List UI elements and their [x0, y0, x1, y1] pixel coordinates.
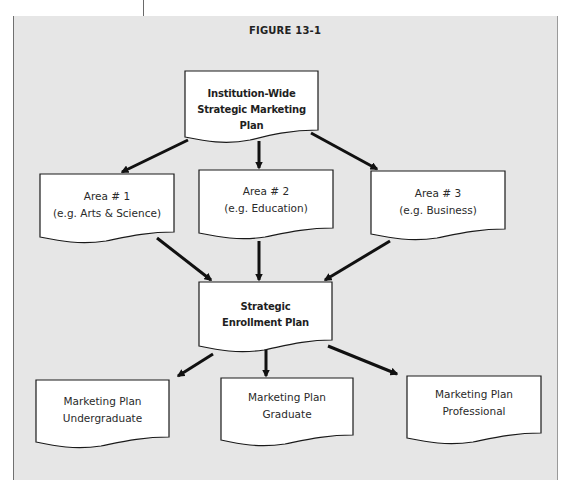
edge-area3-center	[325, 241, 390, 280]
node-area3-label: Area # 3 (e.g. Business)	[371, 185, 505, 219]
edge-top-area1	[122, 140, 188, 172]
edge-top-area3	[311, 133, 377, 169]
edge-center-professional	[328, 346, 397, 374]
node-professional-label: Marketing Plan Professional	[407, 386, 541, 420]
node-area1-label: Area # 1 (e.g. Arts & Science)	[40, 188, 174, 222]
node-center-label: Strategic Enrollment Plan	[199, 299, 332, 331]
node-top-label: Institution-Wide Strategic Marketing Pla…	[185, 86, 318, 134]
node-undergrad-label: Marketing Plan Undergraduate	[36, 393, 169, 427]
edge-center-undergrad	[178, 354, 213, 376]
edge-area1-center	[157, 238, 211, 280]
node-area2-label: Area # 2 (e.g. Education)	[199, 183, 333, 217]
node-graduate-label: Marketing Plan Graduate	[221, 389, 353, 423]
